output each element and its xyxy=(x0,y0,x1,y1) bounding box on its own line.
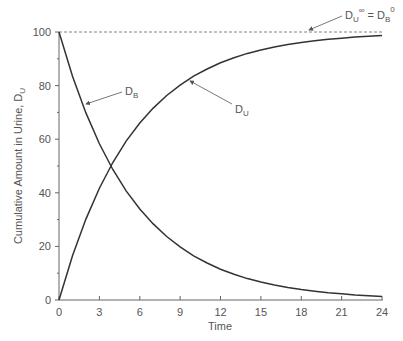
y-axis-label: Cumulative Amount in Urine, DU xyxy=(12,88,27,244)
du-arrow xyxy=(190,81,232,104)
du-curve xyxy=(59,36,382,301)
y-tick: 100 xyxy=(33,26,51,38)
asymptote-arrow xyxy=(309,16,342,30)
x-tick: 0 xyxy=(56,306,62,318)
x-tick-labels: 0 3 6 9 12 15 18 21 24 xyxy=(56,306,388,318)
chart: 0 20 40 60 80 100 0 3 6 9 12 15 18 21 24… xyxy=(0,0,403,341)
db-label: DB xyxy=(125,85,138,100)
y-tick: 80 xyxy=(39,80,51,92)
x-tick: 18 xyxy=(295,306,307,318)
y-tick: 60 xyxy=(39,133,51,145)
y-tick: 20 xyxy=(39,240,51,252)
du-label: DU xyxy=(235,103,249,118)
db-arrow xyxy=(86,92,122,104)
asymptote-label: DU∞ = DB0 xyxy=(345,5,395,24)
y-tick-labels: 0 20 40 60 80 100 xyxy=(33,26,51,306)
y-tick: 40 xyxy=(39,187,51,199)
x-tick: 3 xyxy=(96,306,102,318)
axes xyxy=(55,32,383,300)
x-tick: 12 xyxy=(214,306,226,318)
db-curve xyxy=(59,32,382,297)
x-tick: 6 xyxy=(137,306,143,318)
y-tick: 0 xyxy=(45,294,51,306)
x-tick: 15 xyxy=(255,306,267,318)
x-tick: 9 xyxy=(177,306,183,318)
x-tick: 24 xyxy=(376,306,388,318)
svg-text:Cumulative Amount in Urine, DU: Cumulative Amount in Urine, DU xyxy=(12,88,27,244)
x-axis-label: Time xyxy=(208,320,232,332)
x-tick: 21 xyxy=(335,306,347,318)
